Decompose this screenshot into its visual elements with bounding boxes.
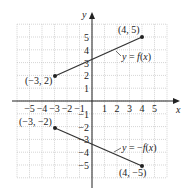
x-axis-label: x (175, 104, 181, 115)
annotation-leader-f (116, 51, 121, 56)
x-tick-label: 2 (115, 103, 120, 114)
x-tick-label: 4 (140, 103, 145, 114)
y-tick-label: 5 (84, 32, 89, 43)
y-tick-label: −4 (78, 147, 89, 158)
point-neg-f-start (53, 126, 57, 130)
x-tick-label: 5 (152, 103, 157, 114)
x-tick-label: −2 (62, 103, 73, 114)
graph: x y −5−4−3−2−112345 54321−1−2−3−4−5 (−3,… (0, 0, 184, 194)
x-tick-label: −5 (24, 103, 35, 114)
x-tick-label: 3 (127, 103, 132, 114)
annotation-neg-f: y = −f(x) (121, 142, 157, 154)
point-label-p3: (−3, −2) (19, 116, 52, 128)
point-label-p2: (4, 5) (118, 24, 140, 36)
point-f-end (140, 35, 144, 39)
y-tick-label: 4 (84, 45, 89, 56)
point-f-start (53, 74, 57, 78)
x-tick-label: 1 (102, 103, 107, 114)
y-tick-label: −1 (78, 109, 89, 120)
y-axis-arrow-icon (89, 12, 95, 19)
y-tick-label: 2 (84, 70, 89, 81)
x-tick-label: −3 (49, 103, 60, 114)
x-tick-label: −4 (37, 103, 48, 114)
point-label-p4: (4, −5) (119, 167, 146, 179)
y-tick-label: −5 (78, 160, 89, 171)
annotation-f: y = f(x) (121, 51, 151, 63)
x-tick-labels: −5−4−3−2−112345 (24, 103, 157, 114)
y-tick-label: −2 (78, 122, 89, 133)
point-label-p1: (−3, 2) (25, 75, 52, 87)
annotation-leader-neg-f (114, 148, 121, 152)
y-tick-label: 1 (84, 83, 89, 94)
y-axis-label: y (81, 9, 87, 20)
